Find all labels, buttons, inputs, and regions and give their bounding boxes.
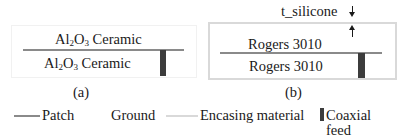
t-silicone-label: t_silicone [281, 3, 337, 19]
legend-coaxial-feed-label: Coaxial [326, 107, 371, 123]
panel-a-bottom-layer-label: Al2O3 Ceramic [44, 55, 131, 71]
legend-encasing-label: Encasing material [200, 107, 304, 123]
panel-b-bottom-layer-label: Rogers 3010 [249, 58, 323, 74]
legend-ground-swatch [82, 115, 108, 117]
panel-b-coaxial-feed [358, 53, 365, 78]
legend-ground-label: Ground [111, 107, 155, 123]
legend-coaxial-feed-label-line2: feed [326, 122, 351, 138]
panel-b-top-layer-label: Rogers 3010 [248, 36, 322, 52]
legend-patch-swatch [14, 115, 40, 117]
panel-a-top-layer-label: Al2O3 Ceramic [55, 31, 142, 47]
panel-a-caption: (a) [73, 84, 89, 100]
arrow-down-icon [349, 12, 355, 17]
legend-patch-label: Patch [42, 107, 74, 123]
panel-a-coaxial-feed [160, 50, 166, 76]
panel-b-caption: (b) [285, 84, 302, 100]
legend-coaxial-feed-swatch [320, 108, 324, 121]
legend-encasing-swatch [166, 115, 198, 117]
dimension-arrow-up-stem [352, 30, 353, 37]
